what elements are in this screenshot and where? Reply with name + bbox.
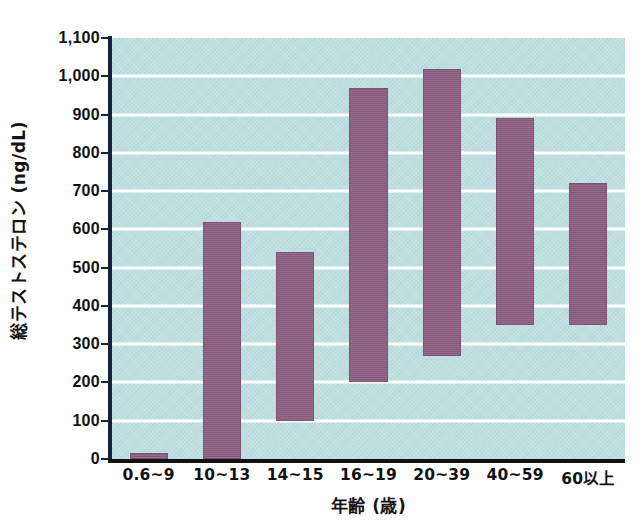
y-axis-title-text: 総テストステロン (ng/dL) — [5, 121, 30, 340]
y-axis-tick-label: 300 — [72, 335, 100, 353]
y-axis-tick-label: 400 — [72, 297, 100, 315]
plot-area — [112, 38, 625, 459]
y-axis-tick-label: 800 — [72, 144, 100, 162]
bar-0.6~9 — [130, 453, 168, 459]
x-axis-tick-label: 60以上 — [561, 466, 615, 488]
x-axis-tick-label: 14~15 — [267, 466, 324, 484]
x-axis-tick-label: 16~19 — [340, 466, 397, 484]
x-axis-title: 年齢 (歳) — [112, 492, 625, 517]
testosterone-age-range-chart: 総テストステロン (ng/dL) 1,1001,0009008007006005… — [0, 0, 643, 523]
y-axis-tick-mark — [101, 343, 108, 345]
gridline — [112, 419, 625, 422]
y-axis-tick-mark — [101, 37, 108, 39]
bar-16~19 — [349, 88, 387, 383]
y-axis-tick-label: 500 — [72, 259, 100, 277]
y-axis-tick-mark — [101, 381, 108, 383]
y-axis-tick-labels: 1,1001,0009008007006005004003002001000 — [34, 38, 108, 459]
y-axis-tick-label: 1,000 — [58, 67, 100, 85]
bar-10~13 — [203, 222, 241, 459]
y-axis-tick-label: 600 — [72, 220, 100, 238]
y-axis-tick-label: 700 — [72, 182, 100, 200]
y-axis-tick-mark — [101, 267, 108, 269]
bar-60以上 — [569, 183, 607, 325]
y-axis-tick-label: 900 — [72, 106, 100, 124]
y-axis-tick-label: 100 — [72, 412, 100, 430]
y-axis-tick-mark — [101, 420, 108, 422]
x-axis-tick-labels: 0.6~910~1314~1516~1920~3940~5960以上 — [112, 466, 625, 492]
x-axis-line — [108, 459, 625, 463]
gridline — [112, 75, 625, 78]
bar-20~39 — [423, 69, 461, 356]
bar-40~59 — [496, 118, 534, 325]
y-axis-tick-mark — [101, 190, 108, 192]
bar-14~15 — [276, 252, 314, 420]
x-axis-tick-label: 40~59 — [486, 466, 543, 484]
x-axis-tick-label: 0.6~9 — [123, 466, 175, 484]
y-axis-tick-mark — [101, 458, 108, 460]
y-axis-tick-mark — [101, 228, 108, 230]
y-axis-tick-mark — [101, 152, 108, 154]
y-axis-tick-label: 200 — [72, 373, 100, 391]
y-axis-title: 総テストステロン (ng/dL) — [0, 0, 34, 460]
x-axis-tick-label: 20~39 — [413, 466, 470, 484]
x-axis-tick-label: 10~13 — [193, 466, 250, 484]
y-axis-tick-label: 0 — [91, 450, 100, 468]
y-axis-tick-mark — [101, 75, 108, 77]
y-axis-tick-mark — [101, 114, 108, 116]
y-axis-tick-label: 1,100 — [58, 29, 100, 47]
y-axis-tick-mark — [101, 305, 108, 307]
